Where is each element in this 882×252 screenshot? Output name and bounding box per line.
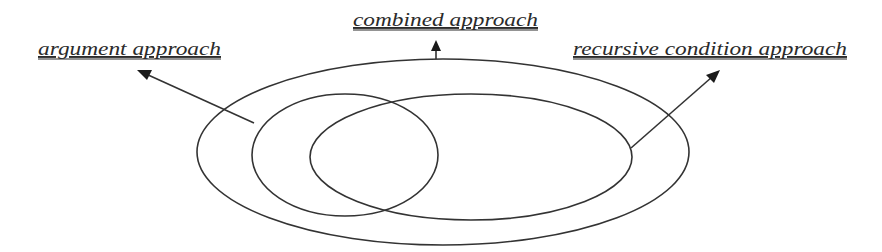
combined-approach-ellipse <box>197 59 689 245</box>
argument-approach-label: argument approach <box>38 38 221 59</box>
argument-arrow <box>137 70 254 123</box>
recursive-condition-approach-label: recursive condition approach <box>573 38 847 59</box>
venn-diagram: argument approach combined approach recu… <box>0 0 882 252</box>
combined-approach-label: combined approach <box>353 9 538 30</box>
recursive-arrow <box>631 70 720 148</box>
combined-arrow <box>431 40 441 59</box>
recursive-condition-approach-ellipse <box>310 94 632 220</box>
argument-approach-ellipse <box>252 94 438 216</box>
arrowhead-icon <box>431 40 441 51</box>
